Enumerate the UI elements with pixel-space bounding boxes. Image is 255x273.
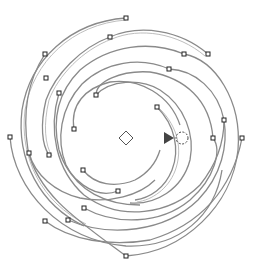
arrow-handle-icon[interactable]: [164, 132, 174, 144]
control-node[interactable]: [72, 127, 76, 131]
control-node[interactable]: [8, 135, 12, 139]
control-node[interactable]: [116, 189, 120, 193]
spiral-drawing-canvas[interactable]: [0, 0, 255, 273]
control-node[interactable]: [167, 67, 171, 71]
control-node[interactable]: [82, 206, 86, 210]
control-node[interactable]: [182, 52, 186, 56]
control-node[interactable]: [124, 16, 128, 20]
spiral-arm[interactable]: [54, 93, 224, 212]
center-diamond-icon[interactable]: [119, 131, 133, 145]
spiral-arm[interactable]: [96, 82, 191, 203]
spiral-arm[interactable]: [84, 138, 217, 220]
control-node[interactable]: [124, 254, 128, 258]
spiral-arm[interactable]: [73, 81, 180, 129]
spiral-arm[interactable]: [68, 120, 225, 230]
spiral-arm[interactable]: [83, 150, 160, 184]
control-node[interactable]: [206, 52, 210, 56]
control-node[interactable]: [44, 76, 48, 80]
control-node[interactable]: [27, 151, 31, 155]
control-node[interactable]: [211, 136, 215, 140]
control-node[interactable]: [47, 153, 51, 157]
control-node[interactable]: [222, 118, 226, 122]
control-node[interactable]: [108, 35, 112, 39]
control-node[interactable]: [94, 93, 98, 97]
control-node[interactable]: [43, 219, 47, 223]
control-node[interactable]: [57, 91, 61, 95]
spiral-arm[interactable]: [26, 54, 126, 256]
control-node[interactable]: [66, 218, 70, 222]
control-node[interactable]: [43, 52, 47, 56]
spiral-arm[interactable]: [56, 46, 184, 193]
control-node[interactable]: [240, 136, 244, 140]
control-node[interactable]: [81, 168, 85, 172]
spiral-arm[interactable]: [169, 69, 224, 120]
control-node[interactable]: [155, 105, 159, 109]
